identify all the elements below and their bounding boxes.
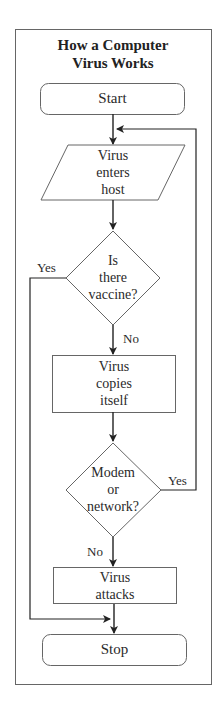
stop-node-label: Stop: [42, 641, 187, 658]
copies-node-label: Virus copies itself: [52, 358, 176, 409]
copies-line1: Virus: [52, 358, 176, 375]
attacks-line1: Virus: [53, 569, 177, 586]
network-line1: Modem: [63, 464, 163, 481]
vaccine-line2: there: [63, 269, 163, 286]
enters-line3: host: [40, 181, 186, 198]
copies-line3: itself: [52, 392, 176, 409]
attacks-node-label: Virus attacks: [53, 569, 177, 603]
diagram-title-line2: Virus Works: [15, 54, 211, 72]
network-no-label: No: [87, 544, 103, 560]
vaccine-line1: Is: [63, 252, 163, 269]
enters-line2: enters: [40, 164, 186, 181]
enters-line1: Virus: [40, 147, 186, 164]
copies-line2: copies: [52, 375, 176, 392]
vaccine-no-label: No: [123, 331, 139, 347]
start-node-label: Start: [40, 90, 185, 107]
attacks-line2: attacks: [53, 586, 177, 603]
enters-node-label: Virus enters host: [40, 147, 186, 198]
vaccine-node-label: Is there vaccine?: [63, 252, 163, 303]
network-node-label: Modem or network?: [63, 464, 163, 515]
diagram-title-line1: How a Computer: [15, 36, 211, 54]
network-line2: or: [63, 481, 163, 498]
network-yes-label: Yes: [168, 473, 187, 489]
vaccine-yes-label: Yes: [37, 260, 56, 276]
vaccine-line3: vaccine?: [63, 286, 163, 303]
network-line3: network?: [63, 498, 163, 515]
